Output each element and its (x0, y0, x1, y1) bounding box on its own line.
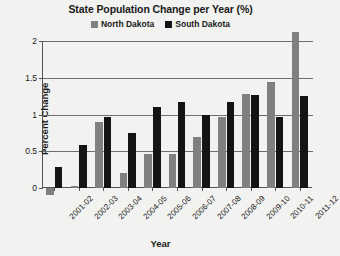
bar-group (189, 41, 214, 188)
bar (153, 107, 161, 188)
x-axis-tick (79, 188, 80, 191)
bar (242, 94, 250, 188)
bar (55, 167, 63, 188)
bar (120, 173, 128, 188)
bars-layer (42, 41, 312, 188)
legend-item-south-dakota: South Dakota (165, 20, 230, 29)
x-axis-label: Year (0, 238, 321, 249)
bar-group (140, 41, 165, 188)
bar (276, 117, 284, 188)
x-axis-tick-label: 2006-07 (191, 194, 218, 221)
bar-group (263, 41, 288, 188)
bar (218, 117, 226, 188)
x-axis-tick-label: 2003-04 (117, 194, 144, 221)
x-axis-tick-label: 2005-06 (166, 194, 193, 221)
bar-group (116, 41, 141, 188)
x-axis-tick (128, 188, 129, 191)
x-axis-tick (300, 188, 301, 191)
legend-swatch-north-dakota (91, 21, 98, 28)
x-axis-tick (251, 188, 252, 191)
bar (169, 154, 177, 188)
x-axis-tick-label: 2001-02 (68, 194, 95, 221)
bar-group (91, 41, 116, 188)
bar-group (165, 41, 190, 188)
bar-group (214, 41, 239, 188)
x-axis-tick (54, 188, 55, 191)
bar (251, 95, 259, 188)
y-axis-tick-label: 1.5 (25, 73, 37, 83)
bar (292, 32, 300, 188)
x-axis-tick (275, 188, 276, 191)
chart-legend: North Dakota South Dakota (0, 20, 321, 29)
x-axis-tick (152, 188, 153, 191)
bar-group (238, 41, 263, 188)
bar-group (42, 41, 67, 188)
x-axis-tick-label: 2002-03 (92, 194, 119, 221)
x-axis-tick (103, 188, 104, 191)
legend-swatch-south-dakota (165, 21, 172, 28)
legend-item-north-dakota: North Dakota (91, 20, 154, 29)
x-axis-tick (177, 188, 178, 191)
chart-title: State Population Change per Year (%) (0, 3, 321, 15)
bar-group (67, 41, 92, 188)
bar (144, 154, 152, 188)
y-axis-tick-label: 2 (32, 36, 37, 46)
legend-label-north-dakota: North Dakota (101, 20, 154, 29)
x-axis-tick-label: 2010-11 (289, 194, 316, 221)
bar (202, 115, 210, 189)
y-axis-tick-label: 0 (32, 183, 37, 193)
bar (267, 82, 275, 188)
x-axis-tick-label: 2011-12 (313, 194, 340, 221)
x-axis-tick-label: 2004-05 (142, 194, 169, 221)
y-axis-tick-label: 0.5 (25, 146, 37, 156)
bar (104, 117, 112, 188)
bar (79, 145, 87, 188)
x-axis-tick (202, 188, 203, 191)
x-axis-tick-label: 2007-08 (215, 194, 242, 221)
y-axis-tick-label: 1 (32, 110, 37, 120)
bar (128, 133, 136, 188)
x-axis-tick (226, 188, 227, 191)
x-axis-tick-label: 2008-09 (240, 194, 267, 221)
bar-group (287, 41, 312, 188)
x-axis-tick-label: 2009-10 (264, 194, 291, 221)
bar (178, 102, 186, 188)
bar (300, 96, 308, 188)
bar (193, 137, 201, 188)
legend-label-south-dakota: South Dakota (175, 20, 230, 29)
bar (95, 122, 103, 188)
bar (227, 102, 235, 188)
